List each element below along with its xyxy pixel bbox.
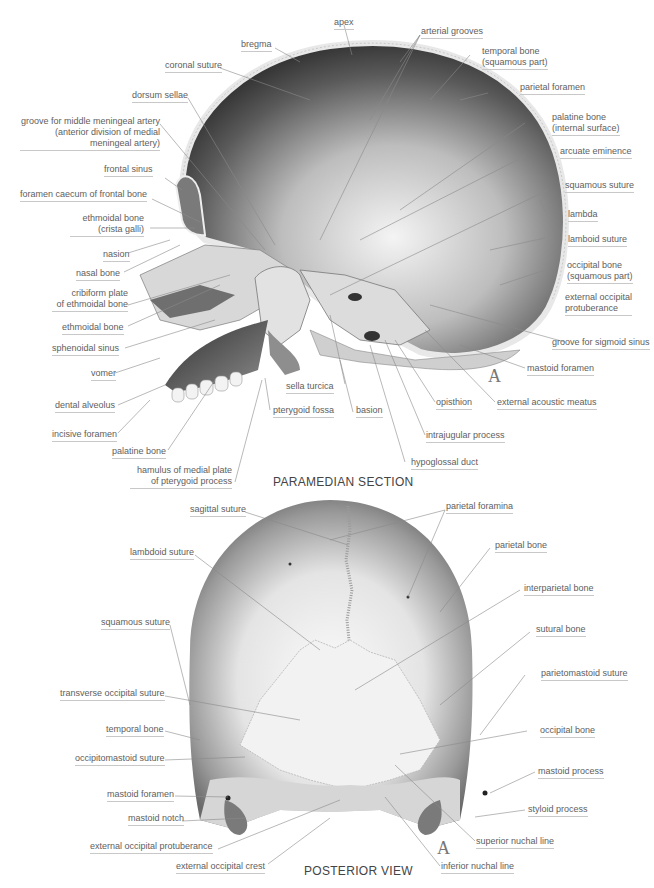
label-mastoid-foramen-posterior: mastoid foramen xyxy=(107,789,174,802)
label-coronal-suture: coronal suture xyxy=(165,60,222,73)
label-sagittal-suture: sagittal suture xyxy=(190,504,246,517)
label-temporal-bone-squamous: temporal bone (squamous part) xyxy=(482,46,548,70)
label-external-occipital-protuberance-posterior: external occipital protuberance xyxy=(90,841,213,854)
label-ethmoidal-bone: ethmoidal bone xyxy=(62,322,124,335)
label-foramen-caecum: foramen caecum of frontal bone xyxy=(20,189,147,202)
label-line-2: of pterygoid process xyxy=(130,476,232,487)
label-external-occipital-protuberance: external occipital protuberance xyxy=(565,292,632,316)
label-hypoglossal-duct: hypoglossal duct xyxy=(411,457,478,470)
label-squamous-suture-posterior: squamous suture xyxy=(101,617,170,630)
label-occipital-bone-posterior: occipital bone xyxy=(540,725,595,738)
figure-mark-a-posterior: A xyxy=(437,838,450,859)
label-mastoid-foramen: mastoid foramen xyxy=(527,363,594,376)
label-basion: basion xyxy=(356,405,383,418)
label-palatine-bone: palatine bone xyxy=(112,446,166,459)
label-line-1: external occipital xyxy=(565,292,632,303)
label-lambdoid-suture: lambdoid suture xyxy=(130,547,194,560)
label-hamulus-medial-plate: hamulus of medial plate of pterygoid pro… xyxy=(130,465,232,489)
label-frontal-sinus: frontal sinus xyxy=(104,164,153,177)
label-parietal-foramen: parietal foramen xyxy=(520,82,585,95)
label-line-2: (squamous part) xyxy=(567,271,633,282)
label-line-2: protuberance xyxy=(565,303,632,314)
label-opisthion: opisthion xyxy=(436,397,472,410)
label-bregma: bregma xyxy=(241,39,272,52)
label-line-1: groove for middle meningeal artery xyxy=(20,116,160,127)
label-squamous-suture: squamous suture xyxy=(565,180,634,193)
label-line-1: palatine bone xyxy=(552,112,620,123)
label-lambda: lambda xyxy=(568,209,598,222)
label-mastoid-process: mastoid process xyxy=(538,766,604,779)
label-intrajugular-process: intrajugular process xyxy=(426,430,505,443)
label-apex: apex xyxy=(334,17,354,30)
label-line-1: cribiform plate xyxy=(52,288,128,299)
paramedian-skull xyxy=(140,43,566,402)
label-sutural-bone: sutural bone xyxy=(536,624,586,637)
label-vomer: vomer xyxy=(91,368,116,381)
label-sella-turcica: sella turcica xyxy=(286,381,334,394)
label-nasal-bone: nasal bone xyxy=(76,268,120,281)
label-parietal-foramina: parietal foramina xyxy=(446,501,513,514)
label-line-3: meningeal artery) xyxy=(20,138,160,149)
label-groove-sigmoid-sinus: groove for sigmoid sinus xyxy=(552,337,650,350)
title-posterior-view: POSTERIOR VIEW xyxy=(304,864,413,878)
label-cribiform-plate: cribiform plate of ethmoidal bone xyxy=(52,288,128,312)
label-mastoid-notch: mastoid notch xyxy=(128,813,184,826)
label-parietal-bone: parietal bone xyxy=(495,540,547,553)
label-parietomastoid-suture: parietomastoid suture xyxy=(541,668,628,681)
posterior-skull xyxy=(189,500,487,835)
label-styloid-process: styloid process xyxy=(528,804,588,817)
label-dental-alveolus: dental alveolus xyxy=(55,400,115,413)
label-line-1: occipital bone xyxy=(567,260,633,271)
label-line-1: hamulus of medial plate xyxy=(130,465,232,476)
label-occipitomastoid-suture: occipitomastoid suture xyxy=(75,753,165,766)
label-inferior-nuchal-line: inferior nuchal line xyxy=(441,861,514,874)
label-lamboid-suture: lamboid suture xyxy=(568,234,627,247)
label-arcuate-eminence: arcuate eminence xyxy=(560,146,632,159)
label-incisive-foramen: incisive foramen xyxy=(52,429,117,442)
label-line-2: (anterior division of medial xyxy=(20,127,160,138)
label-line-2: (crista galli) xyxy=(70,224,144,235)
label-line-2: (internal surface) xyxy=(552,123,620,134)
label-pterygoid-fossa: pterygoid fossa xyxy=(273,405,334,418)
label-dorsum-sellae: dorsum sellae xyxy=(132,90,188,103)
label-palatine-bone-internal: palatine bone (internal surface) xyxy=(552,112,620,136)
title-paramedian-section: PARAMEDIAN SECTION xyxy=(273,475,414,489)
label-transverse-occipital-suture: transverse occipital suture xyxy=(60,688,165,701)
label-external-acoustic-meatus: external acoustic meatus xyxy=(497,397,597,410)
label-interparietal-bone: interparietal bone xyxy=(524,583,594,596)
label-superior-nuchal-line: superior nuchal line xyxy=(476,836,554,849)
label-occipital-bone-squamous: occipital bone (squamous part) xyxy=(567,260,633,284)
label-line-1: ethmoidal bone xyxy=(70,213,144,224)
figure-mark-a-paramedian: A xyxy=(488,366,501,387)
label-line-2: (squamous part) xyxy=(482,57,548,68)
label-temporal-bone-posterior: temporal bone xyxy=(106,724,164,737)
label-arterial-grooves: arterial grooves xyxy=(421,26,483,39)
label-ethmoidal-crista-galli: ethmoidal bone (crista galli) xyxy=(70,213,144,237)
label-groove-middle-meningeal-artery: groove for middle meningeal artery (ante… xyxy=(20,116,160,151)
label-line-1: temporal bone xyxy=(482,46,548,57)
label-sphenoidal-sinus: sphenoidal sinus xyxy=(52,343,119,356)
label-external-occipital-crest: external occipital crest xyxy=(176,861,265,874)
label-nasion: nasion xyxy=(103,249,130,262)
label-line-2: of ethmoidal bone xyxy=(52,299,128,310)
